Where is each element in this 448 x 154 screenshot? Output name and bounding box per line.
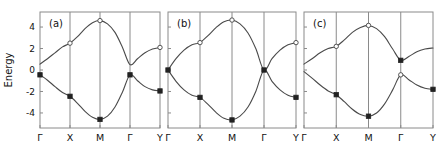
band-marker-open	[230, 18, 234, 22]
panel-label: (b)	[177, 18, 191, 29]
band-marker-open	[399, 73, 403, 77]
band-marker-open	[334, 44, 338, 48]
band-marker-filled	[198, 95, 202, 99]
ytick-label: 2	[29, 44, 35, 54]
y-axis-label: Energy	[3, 52, 14, 87]
panel-label: (a)	[49, 18, 63, 29]
xtick-label-M: M	[228, 132, 236, 143]
ytick-label: 0	[29, 65, 35, 75]
xtick-label-Γ: Γ	[261, 132, 267, 143]
xtick-label-X: X	[197, 132, 204, 143]
band-marker-filled	[230, 118, 234, 122]
band-marker-open	[366, 23, 370, 27]
xtick-label-X: X	[333, 132, 340, 143]
panel-label: (c)	[313, 18, 326, 29]
band-marker-filled	[431, 87, 435, 91]
panel-a	[38, 12, 162, 128]
band-marker-filled	[366, 114, 370, 118]
band-marker-filled	[262, 68, 266, 72]
xtick-label-Γ: Γ	[165, 132, 171, 143]
panel-b	[166, 12, 298, 128]
panel-c	[304, 12, 435, 128]
xtick-label-Γ: Γ	[37, 132, 43, 143]
band-marker-filled	[98, 117, 102, 121]
band-marker-open	[198, 40, 202, 44]
xtick-label-Y: Y	[156, 132, 163, 143]
band-marker-open	[294, 40, 298, 44]
band-marker-filled	[38, 73, 42, 77]
xtick-label-Y: Y	[292, 132, 299, 143]
band-marker-filled	[166, 68, 170, 72]
band-marker-filled	[294, 95, 298, 99]
ytick-label: -4	[26, 108, 35, 118]
ytick-label: -2	[26, 87, 35, 97]
xtick-label-Γ: Γ	[127, 132, 133, 143]
band-structure-figure: -4-2024ΓXMΓY(a)ΓXMΓY(b)ΓXMΓY(c)Energy	[0, 0, 448, 154]
ytick-label: 4	[29, 22, 35, 32]
xtick-label-Γ: Γ	[398, 132, 404, 143]
xtick-label-M: M	[364, 132, 372, 143]
band-marker-filled	[334, 93, 338, 97]
band-marker-filled	[128, 73, 132, 77]
band-marker-open	[98, 18, 102, 22]
band-marker-filled	[158, 89, 162, 93]
figure-canvas: -4-2024ΓXMΓY(a)ΓXMΓY(b)ΓXMΓY(c)Energy	[0, 0, 448, 154]
band-marker-filled	[68, 94, 72, 98]
xtick-label-M: M	[96, 132, 104, 143]
band-marker-filled	[399, 58, 403, 62]
band-marker-open	[158, 45, 162, 49]
xtick-label-Γ: Γ	[301, 132, 307, 143]
xtick-label-X: X	[67, 132, 74, 143]
band-marker-open	[68, 41, 72, 45]
xtick-label-Y: Y	[429, 132, 436, 143]
